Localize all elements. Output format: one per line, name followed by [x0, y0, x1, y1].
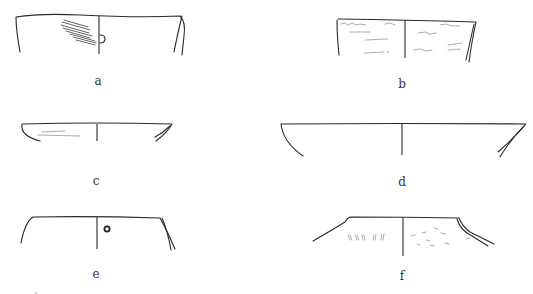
label-b: b [398, 78, 406, 90]
label-e: e [92, 268, 99, 280]
profile-b-left-wall [337, 20, 339, 55]
profile-b [337, 19, 476, 62]
profile-e [21, 217, 175, 250]
profile-e-perforation [104, 226, 109, 231]
pottery-profiles-figure [0, 0, 533, 294]
profile-e-outline [21, 217, 175, 249]
profile-e-right-inner [162, 218, 171, 250]
profile-a-lug [100, 35, 105, 43]
profile-d-outline [281, 124, 526, 157]
label-d: d [398, 176, 406, 188]
profile-a-wall-inner [174, 16, 182, 52]
label-a: a [94, 75, 101, 87]
profile-f [313, 217, 494, 256]
profile-b-marks [341, 23, 462, 53]
profile-f-dashes [411, 228, 470, 246]
profile-b-outline [338, 19, 476, 62]
profile-a [16, 14, 185, 55]
profile-c-marks [38, 131, 80, 136]
profile-d [281, 124, 526, 158]
profile-c [22, 123, 172, 141]
label-c: c [93, 175, 100, 187]
profile-a-hatching [61, 20, 96, 45]
profile-f-impressions [348, 234, 384, 240]
label-f: f [400, 270, 404, 282]
